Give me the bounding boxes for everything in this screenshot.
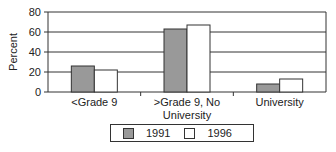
- bar-1996: [280, 79, 303, 92]
- legend-swatch-1991: [123, 128, 134, 139]
- bar-1996: [94, 70, 117, 92]
- y-tick-label: 40: [29, 46, 41, 58]
- legend-label-1991: 1991: [146, 127, 170, 139]
- y-tick-label: 80: [29, 6, 41, 18]
- y-tick-label: 60: [29, 26, 41, 38]
- legend-swatch-1996: [184, 128, 195, 139]
- legend-item-1996: 1996: [184, 127, 231, 139]
- bar-1991: [164, 29, 187, 92]
- x-category-label: >Grade 9, No: [154, 96, 220, 108]
- legend-label-1996: 1996: [207, 127, 231, 139]
- x-category-label: <Grade 9: [71, 96, 117, 108]
- bar-1991: [71, 66, 94, 92]
- y-tick-label: 20: [29, 66, 41, 78]
- bar-1996: [187, 25, 210, 92]
- bar-1991: [257, 84, 280, 92]
- legend: 1991 1996: [110, 124, 254, 142]
- y-axis-label: Percent: [7, 33, 19, 71]
- legend-item-1991: 1991: [123, 127, 170, 139]
- x-category-label: University: [256, 96, 305, 108]
- x-category-label: University: [163, 109, 212, 121]
- y-tick-label: 0: [35, 86, 41, 98]
